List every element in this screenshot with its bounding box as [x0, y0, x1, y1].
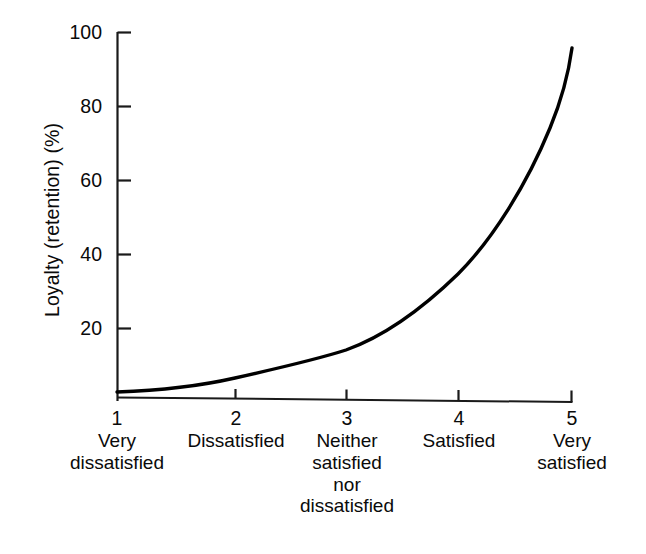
satisfaction-loyalty-chart: Loyalty (retention) (%) 100 80 60 40 20 …	[0, 0, 646, 554]
y-tick-label-20: 20	[44, 319, 102, 339]
loyalty-curve	[117, 48, 572, 392]
x-tick-line2-1: dissatisfied	[27, 452, 207, 474]
x-axis-line	[117, 398, 573, 403]
y-axis-label-text: Loyalty (retention) (%)	[41, 123, 64, 317]
y-tick-label-80: 80	[44, 97, 102, 117]
y-tick-label-60: 60	[44, 171, 102, 191]
x-tick-line2-5: satisfied	[482, 452, 646, 474]
x-tick-label-5: 5 Very satisfied	[482, 407, 646, 474]
x-tick-line1-5: Very	[482, 430, 646, 452]
x-tick-number-5: 5	[482, 407, 646, 429]
x-tick-line4-3: dissatisfied	[257, 495, 437, 517]
y-tick-label-40: 40	[44, 245, 102, 265]
x-tick-line2-3: satisfied	[257, 452, 437, 474]
x-tick-line3-3: nor	[257, 474, 437, 496]
y-tick-label-100: 100	[44, 23, 102, 43]
